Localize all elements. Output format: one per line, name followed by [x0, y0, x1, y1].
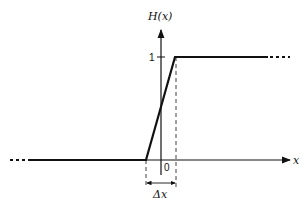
function-curve — [10, 57, 290, 160]
y-axis — [157, 30, 165, 175]
ramp-step-diagram: H(x) x 1 0 Δx — [0, 0, 306, 203]
origin-label: 0 — [164, 162, 170, 173]
level-one-label: 1 — [149, 52, 155, 63]
delta-x-label: Δx — [152, 188, 168, 201]
y-axis-label: H(x) — [147, 10, 172, 23]
x-axis-label: x — [293, 154, 300, 167]
